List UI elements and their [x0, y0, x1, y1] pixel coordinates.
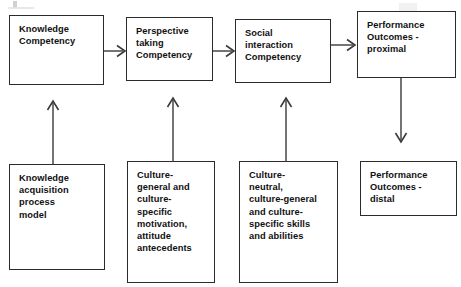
- edge-social-to-proximal: [331, 36, 359, 54]
- edge-skills-to-social: [277, 96, 295, 162]
- node-knowledge-acquisition-process-model[interactable]: Knowledge acquisition process model: [9, 164, 105, 270]
- node-social-interaction-competency[interactable]: Social interaction Competency: [235, 19, 331, 83]
- edge-knowledge-to-perspective: [104, 42, 128, 60]
- edge-perspective-to-social: [213, 42, 237, 60]
- node-culture-general-specific-motivation[interactable]: Culture- general and culture- specific m…: [127, 161, 215, 283]
- node-performance-outcomes-distal[interactable]: Performance Outcomes - distal: [360, 161, 457, 216]
- diagram-canvas: Knowledge Competency Perspective taking …: [0, 0, 461, 287]
- node-knowledge-competency[interactable]: Knowledge Competency: [9, 15, 104, 85]
- node-culture-neutral-general-specific-skills[interactable]: Culture- neutral, culture-general and cu…: [239, 161, 338, 283]
- node-perspective-taking-competency[interactable]: Perspective taking Competency: [126, 17, 213, 81]
- scan-artifact-line: [8, 7, 34, 9]
- edge-acquisition-to-knowledge: [44, 99, 62, 165]
- edge-proximal-to-distal: [392, 78, 410, 144]
- edge-motivation-to-perspective: [164, 96, 182, 162]
- node-performance-outcomes-proximal[interactable]: Performance Outcomes - proximal: [357, 11, 456, 78]
